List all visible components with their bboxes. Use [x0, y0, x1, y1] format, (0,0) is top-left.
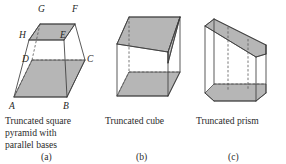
figure-a-caption-line-2: pyramid with [5, 127, 57, 138]
figure-a-subcaption: (a) [41, 151, 52, 163]
geometry-figure-panel: A B C D E F G H [0, 0, 286, 164]
figure-a-label-F: F [71, 4, 78, 14]
figure-a-top-base [29, 24, 75, 40]
figure-a-label-A: A [8, 101, 15, 111]
figure-b-subcaption: (b) [136, 151, 147, 163]
figure-a-label-D: D [21, 54, 29, 64]
figure-a-caption-line-1: Truncated square [5, 115, 71, 126]
figure-a-label-H: H [18, 30, 27, 40]
figure-c-subcaption: (c) [228, 151, 239, 163]
figure-c-caption-line-1: Truncated prism [196, 115, 259, 126]
figure-a-right-edge [75, 24, 85, 60]
figure-a-bottom-base [14, 60, 85, 97]
figure-c-bottom-face [205, 84, 266, 101]
figure-b-bottom-face [117, 72, 180, 96]
figure-a-label-E: E [59, 30, 66, 40]
figure-a-caption-line-3: parallel bases [5, 139, 57, 150]
figure-a-label-G: G [38, 4, 45, 14]
figure-a-label-B: B [63, 101, 69, 111]
figure-a-truncated-square-pyramid: A B C D E F G H [0, 0, 286, 164]
figure-b-caption-line-1: Truncated cube [105, 115, 164, 126]
figure-a-label-C: C [87, 54, 94, 64]
